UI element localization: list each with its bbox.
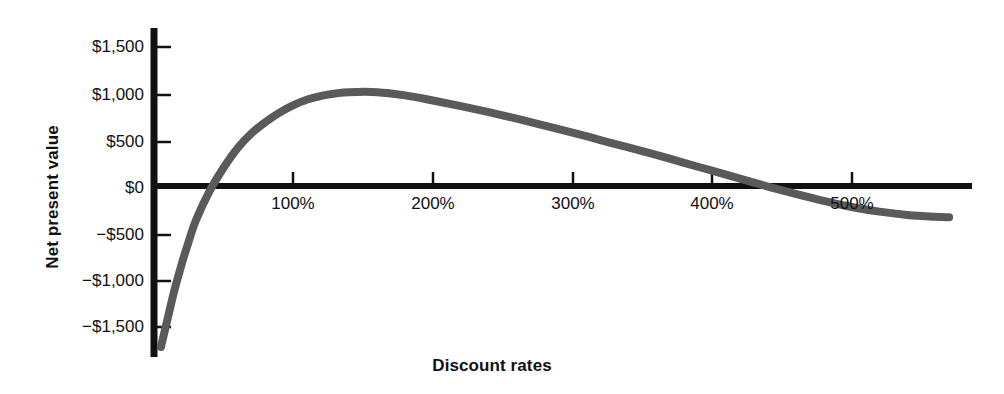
x-axis-title: Discount rates bbox=[152, 356, 832, 376]
x-axis-ticks bbox=[293, 172, 852, 184]
npv-chart: $1,500 $1,000 $500 $0 −$500 −$1,000 −$1,… bbox=[0, 0, 1004, 394]
x-tick-400: 400% bbox=[667, 194, 757, 214]
x-tick-300: 300% bbox=[528, 194, 618, 214]
x-tick-200: 200% bbox=[388, 194, 478, 214]
npv-curve-line bbox=[161, 92, 949, 347]
x-tick-100: 100% bbox=[248, 194, 338, 214]
y-axis-title: Net present value bbox=[38, 0, 68, 394]
x-tick-500: 500% bbox=[807, 194, 897, 214]
